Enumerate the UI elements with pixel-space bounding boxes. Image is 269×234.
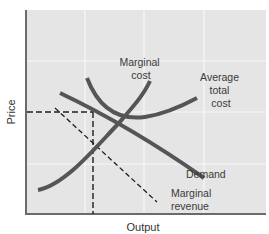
x-axis-title: Output [126, 221, 159, 233]
monopoly-cost-revenue-chart: Marginal cost Average total cost Demand … [0, 0, 269, 234]
demand-label: Demand [186, 168, 226, 180]
y-axis-title: Price [5, 99, 17, 124]
marginal-revenue-label: Marginal revenue [171, 187, 214, 212]
